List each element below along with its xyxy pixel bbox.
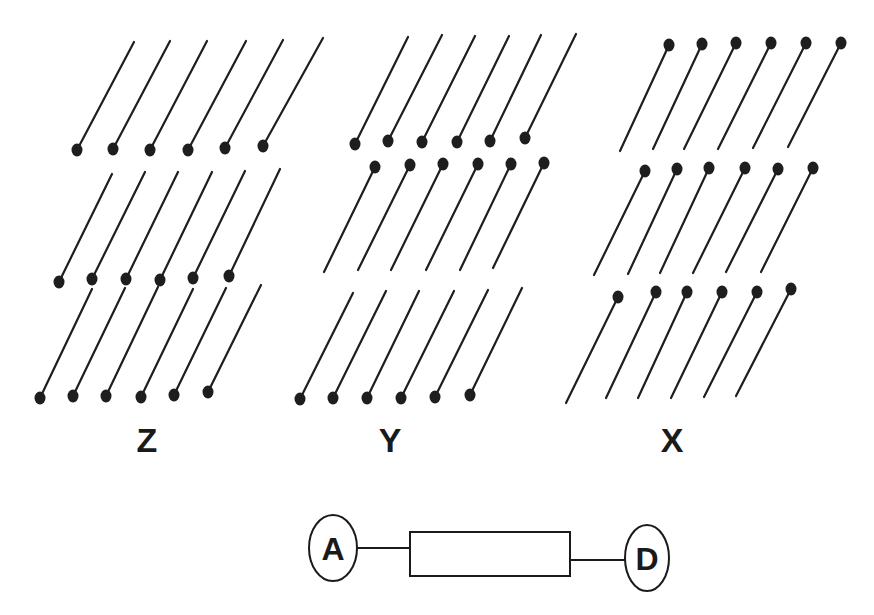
pin-head-dot [169, 389, 180, 402]
pin-head-dot [773, 163, 784, 176]
pin-head-dot [836, 37, 847, 50]
pin-head-dot [203, 386, 214, 399]
node-d-label: D [635, 541, 658, 577]
pin-head-dot [801, 37, 812, 50]
pin-line [324, 167, 375, 272]
node-a-label: A [321, 531, 344, 567]
pin-head-dot [664, 39, 675, 52]
pin-row-1-dot-bottom [350, 34, 577, 151]
pin-head-dot [383, 135, 394, 148]
group-label-z: Z [137, 421, 158, 459]
pin-line [460, 164, 511, 270]
pin-head-dot [362, 392, 373, 405]
pin-head-dot [224, 270, 235, 283]
pin-line [788, 43, 841, 147]
pin-head-dot [651, 286, 662, 299]
pin-line [736, 289, 791, 396]
pin-row-2-dot-top [594, 162, 819, 276]
pin-row-1-dot-bottom [72, 38, 324, 157]
pin-line [59, 174, 112, 282]
group-label-y: Y [379, 421, 402, 459]
pin-head-dot [731, 37, 742, 50]
pin-line [684, 43, 736, 149]
pin-row-2-dot-bottom [54, 169, 281, 289]
pin-head-dot [370, 161, 381, 174]
pin-head-dot [328, 392, 339, 405]
pin-line [73, 288, 125, 396]
pin-head-dot [752, 286, 763, 299]
pin-line [525, 34, 576, 138]
pin-head-dot [87, 273, 98, 286]
blank-box [410, 532, 570, 576]
group-x: X [566, 37, 847, 460]
pin-head-dot [108, 143, 119, 156]
pin-line [388, 35, 442, 141]
pin-head-dot [295, 393, 306, 406]
pin-line [628, 169, 677, 274]
pin-line [40, 289, 92, 398]
pin-head-dot [72, 144, 83, 157]
pin-head-dot [220, 142, 231, 155]
pin-head-dot [68, 390, 79, 403]
pin-head-dot [430, 391, 441, 404]
pin-row-3-dot-bottom [35, 285, 262, 405]
node-a: A [309, 515, 357, 581]
pin-line [704, 292, 757, 397]
pin-line [174, 288, 226, 395]
pin-head-dot [506, 158, 517, 171]
pin-head-dot [808, 162, 819, 175]
pin-head-dot [350, 138, 361, 151]
pin-line [150, 41, 207, 150]
pin-head-dot [54, 276, 65, 289]
pin-head-dot [417, 136, 428, 149]
pin-head-dot [520, 132, 531, 145]
pin-line [358, 165, 410, 270]
pin-head-dot [452, 136, 463, 149]
pin-row-3-dot-top [566, 283, 797, 404]
pin-line [457, 36, 509, 142]
pin-head-dot [136, 391, 147, 404]
pin-line [92, 172, 145, 279]
pin-line [333, 291, 386, 398]
pin-line [718, 43, 771, 149]
pin-head-dot [465, 389, 476, 402]
pin-line [188, 41, 246, 150]
pin-head-dot [485, 135, 496, 148]
pin-head-dot [672, 163, 683, 176]
pin-groups: ZYX [35, 34, 847, 459]
pin-line [160, 172, 212, 280]
pin-head-dot [145, 144, 156, 157]
pin-head-dot [183, 144, 194, 157]
pin-line [77, 42, 134, 150]
pin-line [490, 35, 541, 141]
group-label-x: X [661, 421, 684, 459]
pin-orientation-diagram: ZYX A D [0, 0, 874, 615]
pin-head-dot [697, 38, 708, 51]
pin-head-dot [640, 165, 651, 178]
pin-head-dot [766, 37, 777, 50]
pin-line [493, 163, 544, 268]
pin-head-dot [155, 274, 166, 287]
pin-line [761, 168, 813, 272]
pin-head-dot [717, 286, 728, 299]
pin-head-dot [405, 159, 416, 172]
pin-line [300, 293, 353, 399]
node-d: D [625, 525, 669, 591]
pin-head-dot [682, 286, 693, 299]
pin-line [355, 37, 408, 144]
pin-head-dot [188, 272, 199, 285]
pin-line [391, 164, 443, 270]
pin-line [422, 36, 475, 142]
pin-line [726, 169, 778, 272]
pin-line [594, 171, 645, 275]
pin-line [426, 164, 478, 270]
pin-line [193, 171, 245, 278]
pin-head-dot [121, 273, 132, 286]
pin-head-dot [704, 162, 715, 175]
pin-line [620, 45, 669, 151]
pin-line [753, 43, 806, 148]
pin-line [113, 41, 170, 149]
pin-head-dot [786, 283, 797, 296]
pin-head-dot [473, 158, 484, 171]
group-z: Z [35, 38, 324, 459]
